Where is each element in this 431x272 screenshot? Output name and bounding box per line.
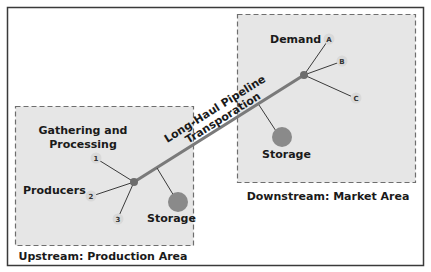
upstream-storage-tank xyxy=(168,192,188,212)
gathering-label-line1: Gathering and xyxy=(39,124,128,137)
demand-node-a-label: A xyxy=(326,36,332,44)
producer-node-1-label: 1 xyxy=(94,155,99,163)
producer-node-2-label: 2 xyxy=(89,193,94,201)
demand-label: Demand xyxy=(270,33,321,46)
demand-node-c-label: C xyxy=(353,95,358,103)
downstream-area-label: Downstream: Market Area xyxy=(247,190,410,203)
gathering-label-line2: Processing xyxy=(49,138,117,151)
upstream-storage-label: Storage xyxy=(147,212,196,225)
producer-node-3: 3 xyxy=(113,214,124,225)
pipeline-diagram: 1 2 3 A B C Gathering and Processing Pro… xyxy=(0,0,431,272)
demand-node-a: A xyxy=(324,34,335,45)
downstream-storage-tank xyxy=(272,127,292,147)
downstream-hub xyxy=(300,71,308,79)
demand-node-c: C xyxy=(351,93,362,104)
demand-node-b: B xyxy=(337,56,348,67)
downstream-storage-label: Storage xyxy=(262,148,311,161)
upstream-hub xyxy=(130,178,138,186)
producer-node-2: 2 xyxy=(86,191,97,202)
demand-node-b-label: B xyxy=(339,58,344,66)
producer-node-1: 1 xyxy=(91,153,102,164)
producer-node-3-label: 3 xyxy=(116,216,121,224)
producers-label: Producers xyxy=(23,184,86,197)
upstream-area-label: Upstream: Production Area xyxy=(19,250,188,263)
